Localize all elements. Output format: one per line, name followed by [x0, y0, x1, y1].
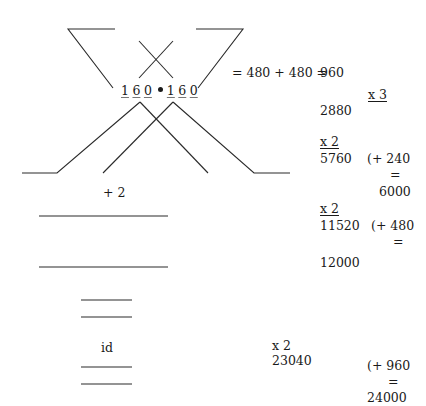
step-2-value: 5760 — [320, 152, 352, 166]
result-960: 960 — [320, 66, 344, 80]
lower-right-outer-line — [173, 102, 290, 173]
diagram-lines — [0, 0, 426, 406]
step-1-multiplier: x 3 — [368, 88, 387, 102]
step-2-addend: (+ 240 — [367, 152, 410, 166]
step-2-total: 6000 — [379, 185, 411, 199]
right-digit-2: 6 — [178, 84, 186, 98]
lower-left-inner-line — [140, 102, 208, 173]
id-label: id — [101, 341, 113, 355]
lower-left-outer-line — [22, 102, 140, 173]
step-4-addend: (+ 960 — [367, 359, 410, 373]
multiplication-expression: 160160 — [121, 84, 201, 98]
left-digit-2: 6 — [132, 84, 140, 98]
step-3-addend: (+ 480 — [371, 219, 414, 233]
plus-two-label: + 2 — [103, 186, 125, 200]
equation-text: = 480 + 480 = — [232, 66, 327, 80]
step-4-equals: = — [388, 375, 398, 389]
step-3-total: 12000 — [320, 256, 360, 270]
multiply-dot-icon — [158, 87, 163, 92]
right-digit-1: 1 — [167, 84, 175, 98]
left-digit-3: 0 — [144, 84, 152, 98]
step-4-value: 23040 — [272, 354, 312, 368]
top-left-bracket-line — [68, 29, 115, 88]
lower-right-inner-line — [103, 102, 173, 173]
step-3-value: 11520 — [320, 219, 360, 233]
step-3-equals: = — [393, 235, 403, 249]
step-4-multiplier: x 2 — [272, 339, 291, 353]
right-digit-3: 0 — [190, 84, 198, 98]
step-4-total: 24000 — [367, 391, 407, 405]
step-1-value: 2880 — [320, 104, 352, 118]
step-2-equals: = — [390, 168, 400, 182]
left-digit-1: 1 — [121, 84, 129, 98]
step-2-multiplier: x 2 — [320, 135, 339, 149]
step-3-multiplier: x 2 — [320, 202, 339, 216]
